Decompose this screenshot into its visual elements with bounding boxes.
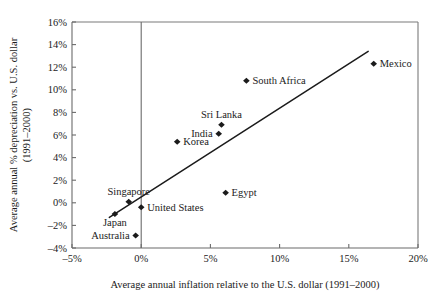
data-point-marker bbox=[218, 122, 225, 128]
y-tick-label: 4% bbox=[53, 152, 67, 163]
data-point: Egypt bbox=[222, 187, 256, 198]
y-tick-label: 0% bbox=[53, 197, 67, 208]
y-tick-label: 2% bbox=[53, 175, 67, 186]
y-axis-title-line-2: (1991–2000) bbox=[21, 107, 33, 162]
y-tick-label: –2% bbox=[47, 220, 68, 231]
data-point-marker bbox=[243, 78, 250, 84]
data-point-marker bbox=[222, 190, 229, 196]
data-point: Korea bbox=[174, 136, 209, 147]
x-tick-label: 15% bbox=[339, 253, 359, 264]
data-point-marker bbox=[132, 233, 139, 239]
data-point-marker bbox=[215, 131, 222, 137]
data-point-label: Korea bbox=[183, 136, 209, 147]
x-tick-label: 10% bbox=[270, 253, 290, 264]
data-point-label: Japan bbox=[103, 217, 128, 228]
data-points-layer: MexicoSouth AfricaSri LankaIndiaKoreaEgy… bbox=[91, 58, 412, 241]
data-point: South Africa bbox=[243, 75, 306, 86]
data-point: Mexico bbox=[370, 58, 411, 69]
data-point-label: Egypt bbox=[232, 187, 257, 198]
data-point-label: Mexico bbox=[380, 58, 412, 69]
y-tick-label: 12% bbox=[48, 62, 68, 73]
scatter-chart-figure: –4%–2%0%2%4%6%8%10%12%14%16% –5%0%5%10%1… bbox=[0, 0, 446, 300]
y-axis-title-line-1: Average annual % depreciation vs. U.S. d… bbox=[8, 37, 19, 232]
chart-canvas: –4%–2%0%2%4%6%8%10%12%14%16% –5%0%5%10%1… bbox=[0, 0, 446, 300]
data-point: Australia bbox=[91, 230, 139, 241]
x-tick-label: –5% bbox=[61, 253, 82, 264]
data-point-label: Sri Lanka bbox=[201, 109, 242, 120]
y-tick-label: 8% bbox=[53, 107, 67, 118]
data-point-label: Singapore bbox=[107, 186, 150, 197]
x-axis-title: Average annual inflation relative to the… bbox=[110, 279, 380, 291]
plot-frame bbox=[72, 22, 418, 248]
y-tick-label: 6% bbox=[53, 130, 67, 141]
data-point-marker bbox=[174, 139, 181, 145]
y-tick-label: –4% bbox=[47, 243, 68, 254]
x-tick-label: 5% bbox=[203, 253, 217, 264]
data-point-marker bbox=[138, 204, 145, 210]
y-tick-label: 10% bbox=[48, 84, 68, 95]
data-point-marker bbox=[370, 61, 377, 67]
data-point: Japan bbox=[103, 211, 128, 228]
y-tick-label: 14% bbox=[48, 39, 68, 50]
data-point-label: South Africa bbox=[252, 75, 306, 86]
data-point-label: United States bbox=[147, 202, 203, 213]
x-tick-label: 20% bbox=[408, 253, 428, 264]
y-tick-label: 16% bbox=[48, 17, 68, 28]
data-point-label: Australia bbox=[91, 230, 130, 241]
x-axis-ticks: –5%0%5%10%15%20% bbox=[61, 244, 428, 264]
data-point: United States bbox=[138, 202, 204, 213]
data-point: Sri Lanka bbox=[201, 109, 242, 128]
x-tick-label: 0% bbox=[134, 253, 148, 264]
data-point: Singapore bbox=[107, 186, 150, 205]
